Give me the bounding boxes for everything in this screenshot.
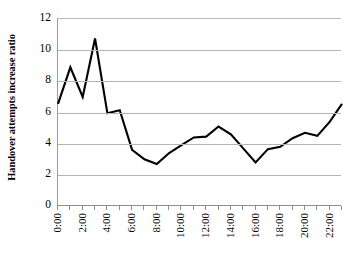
x-tick-label-text: 4:00 [101, 213, 112, 233]
x-tick [57, 206, 58, 210]
y-tick-label: 12 [40, 12, 52, 24]
x-tick [205, 206, 206, 210]
x-tick [218, 206, 219, 210]
x-tick-label-text: 8:00 [150, 213, 161, 233]
y-tick-label: 2 [45, 168, 51, 180]
x-tick [242, 206, 243, 210]
x-tick-label-text: 22:00 [323, 213, 334, 238]
x-tick-label-text: 10:00 [175, 213, 186, 238]
x-tick [82, 206, 83, 210]
x-tick-label-text: 20:00 [298, 213, 309, 238]
gridline [58, 50, 341, 51]
y-tick-label: 8 [45, 75, 51, 87]
x-tick-label-text: 2:00 [76, 213, 87, 233]
x-tick [267, 206, 268, 210]
x-tick [341, 206, 342, 210]
x-tick-label-text: 12:00 [200, 213, 211, 238]
x-tick [131, 206, 132, 210]
x-tick-label-text: 0:00 [52, 213, 63, 233]
x-tick-label-text: 6:00 [126, 213, 137, 233]
x-tick [180, 206, 181, 210]
x-tick [292, 206, 293, 210]
x-tick [156, 206, 157, 210]
x-tick [279, 206, 280, 210]
y-axis-tick-labels: 024681012 [22, 12, 55, 212]
y-tick-label: 10 [40, 43, 52, 55]
y-tick-label: 4 [45, 137, 51, 149]
gridline [58, 113, 341, 114]
y-tick-label: 6 [45, 106, 51, 118]
x-tick [106, 206, 107, 210]
plot-area [57, 18, 341, 205]
x-tick [255, 206, 256, 210]
x-tick [168, 206, 169, 210]
x-tick [193, 206, 194, 210]
x-tick [316, 206, 317, 210]
y-tick-label: 0 [45, 199, 51, 211]
x-tick-label-text: 14:00 [224, 213, 235, 238]
x-tick-label-text: 16:00 [249, 213, 260, 238]
x-tick [230, 206, 231, 210]
x-axis-tick-labels: 0:002:004:006:008:0010:0012:0014:0016:00… [57, 211, 341, 259]
x-tick [329, 206, 330, 210]
y-axis-title-text: Handover attempts increase ratio [6, 34, 17, 181]
x-tick [119, 206, 120, 210]
gridline [58, 144, 341, 145]
x-tick [94, 206, 95, 210]
x-tick-label-text: 18:00 [274, 213, 285, 238]
x-tick [143, 206, 144, 210]
x-tick [69, 206, 70, 210]
y-axis-title: Handover attempts increase ratio [0, 0, 22, 215]
gridline [58, 81, 341, 82]
data-series-line [58, 38, 342, 163]
line-chart: Handover attempts increase ratio 0246810… [0, 0, 352, 263]
x-tick [304, 206, 305, 210]
gridline [58, 175, 341, 176]
